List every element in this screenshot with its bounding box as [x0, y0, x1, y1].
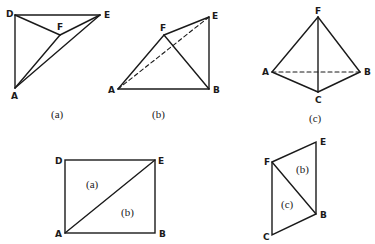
figure-a: D E F A (a): [6, 9, 110, 121]
edge-FB: [164, 35, 209, 89]
figure-caption-b: (b): [152, 108, 165, 121]
vertex-label-B: B: [364, 67, 371, 77]
face-label-a: (a): [86, 178, 99, 191]
vertex-label-E: E: [104, 10, 110, 20]
vertex-label-F: F: [264, 157, 270, 167]
edge-FE: [164, 17, 209, 35]
vertex-label-C: C: [315, 95, 322, 105]
vertex-label-F: F: [315, 6, 321, 16]
edge-FA: [15, 35, 60, 88]
figure-caption-a: (a): [51, 108, 64, 121]
vertex-label-B: B: [213, 85, 220, 95]
edge-FA: [272, 17, 318, 72]
vertex-label-C: C: [263, 232, 270, 242]
edge-CB: [318, 72, 360, 92]
net-parallelogram: F E B C (b) (c): [263, 137, 327, 242]
vertex-label-B: B: [159, 229, 166, 239]
vertex-label-D: D: [6, 9, 13, 19]
edge-AC: [272, 72, 318, 92]
vertex-label-E: E: [212, 11, 218, 21]
figure-c: F A B C (c): [262, 6, 371, 125]
net-rectangle: D E A B (a) (b): [55, 156, 166, 239]
vertex-label-A: A: [11, 91, 18, 101]
figure-b: A F E B (b): [108, 11, 220, 121]
edge-FB: [318, 17, 360, 72]
vertex-label-D: D: [55, 156, 62, 166]
vertex-label-A: A: [108, 85, 115, 95]
edge-AE: [65, 160, 155, 233]
diagram-canvas: D E F A (a) A F E B (b) F A B C (c) D: [0, 0, 375, 244]
vertex-label-E: E: [320, 137, 326, 147]
vertex-label-B: B: [320, 210, 327, 220]
vertex-label-A: A: [262, 67, 269, 77]
vertex-label-F: F: [160, 23, 166, 33]
vertex-label-A: A: [55, 229, 62, 239]
face-label-c: (c): [281, 198, 294, 211]
figure-caption-c: (c): [309, 112, 322, 125]
face-label-b: (b): [296, 163, 309, 176]
edge-FB: [272, 162, 316, 214]
edge-AF: [118, 35, 164, 89]
edge-DF: [15, 15, 60, 35]
vertex-label-F: F: [57, 22, 63, 32]
face-label-b: (b): [121, 206, 134, 219]
vertex-label-E: E: [158, 156, 164, 166]
